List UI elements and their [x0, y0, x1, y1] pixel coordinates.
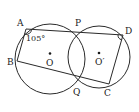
center-dot-o-prime [98, 52, 101, 55]
geometry-diagram: A P D B O O′ Q C 105° [0, 0, 139, 112]
center-dot-o [49, 52, 52, 55]
segment-dc [109, 35, 123, 84]
label-angle-a: 105° [26, 34, 45, 43]
label-o: O [46, 58, 53, 68]
label-a: A [16, 18, 24, 28]
label-p: P [75, 18, 81, 28]
label-o-prime: O′ [95, 57, 104, 67]
label-b: B [7, 57, 14, 67]
label-c: C [104, 88, 111, 98]
label-q: Q [73, 87, 80, 97]
label-d: D [125, 26, 132, 36]
